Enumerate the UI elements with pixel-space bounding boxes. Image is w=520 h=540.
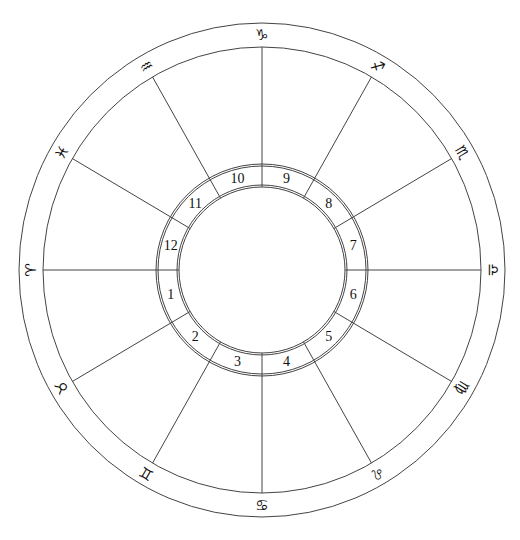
gemini-icon: ♊	[136, 462, 157, 484]
cusp-line	[334, 312, 452, 382]
taurus-icon: ♉	[51, 377, 73, 398]
house-number-10: 10	[231, 171, 245, 186]
sagittarius-icon: ♐	[367, 55, 388, 77]
cusp-line	[153, 342, 221, 463]
cancer-icon: ♋	[255, 496, 268, 514]
cusp-line	[334, 159, 452, 229]
house-number-6: 6	[350, 287, 357, 302]
house-number-7: 7	[350, 238, 357, 253]
aries-icon: ♈	[22, 263, 40, 276]
house-number-3: 3	[234, 354, 241, 369]
libra-icon: ♎	[484, 263, 502, 276]
house-inner-ring-a	[177, 185, 347, 355]
virgo-icon: ♍	[451, 377, 473, 398]
house-number-12: 12	[164, 238, 178, 253]
cusp-line	[304, 342, 372, 463]
house-number-8: 8	[325, 196, 332, 211]
capricorn-icon: ♑	[255, 26, 268, 44]
house-number-1: 1	[167, 287, 174, 302]
cusp-line	[304, 77, 372, 198]
cusp-line	[72, 312, 190, 382]
house-number-4: 4	[283, 354, 290, 369]
house-cusp-lines	[43, 47, 481, 493]
pisces-icon: ♓	[51, 142, 73, 163]
house-inner-ring-b	[179, 187, 345, 353]
leo-icon: ♌	[367, 462, 388, 484]
cusp-line	[153, 77, 221, 198]
house-number-5: 5	[325, 329, 332, 344]
scorpio-icon: ♏	[451, 142, 474, 163]
house-number-9: 9	[283, 171, 290, 186]
natal-chart-wheel: ♑♐♏♎♍♌♋♊♉♈♓♒ 123456789101112	[0, 0, 520, 540]
house-number-2: 2	[192, 329, 199, 344]
house-numbers: 123456789101112	[164, 171, 357, 369]
house-number-11: 11	[188, 196, 201, 211]
cusp-line	[72, 159, 190, 229]
aquarius-icon: ♒	[136, 55, 157, 77]
